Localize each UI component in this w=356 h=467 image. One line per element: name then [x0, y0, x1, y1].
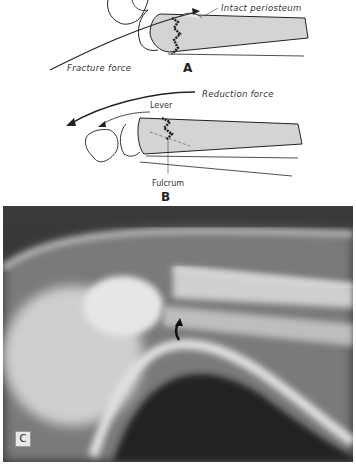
panel-b-label: B	[161, 190, 170, 203]
xray-image	[3, 206, 353, 462]
fulcrum-label: Fulcrum	[152, 179, 184, 188]
panel-a-fracture-diagram: Intact periosteum Fracture force A	[0, 0, 356, 88]
panel-c-radiograph	[3, 206, 353, 462]
panel-b-reduction-diagram: Reduction force Lever Fulcrum B	[0, 88, 356, 203]
fracture-force-label: Fracture force	[67, 63, 131, 73]
panel-a-label: A	[183, 61, 193, 75]
panel-c-label: C	[15, 431, 31, 447]
fracture-illustration: Intact periosteum Fracture force A	[0, 0, 356, 88]
intact-periosteum-label: Intact periosteum	[221, 3, 302, 13]
reduction-illustration: Reduction force Lever Fulcrum B	[0, 88, 356, 203]
reduction-force-label: Reduction force	[202, 89, 274, 99]
lever-label: Lever	[150, 101, 173, 110]
